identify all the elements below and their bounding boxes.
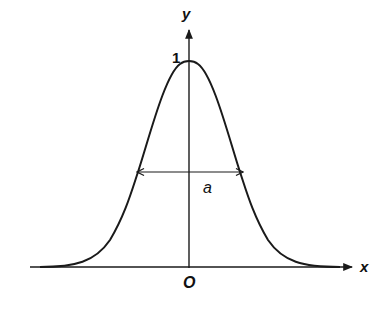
width-label: a [203, 179, 212, 196]
peak-value-label: 1 [172, 49, 180, 66]
x-axis-label: x [359, 258, 369, 275]
gaussian-diagram: y x 1 a O [0, 0, 385, 313]
bell-curve [40, 61, 340, 267]
y-axis-label: y [181, 5, 191, 22]
origin-label: O [183, 274, 196, 291]
